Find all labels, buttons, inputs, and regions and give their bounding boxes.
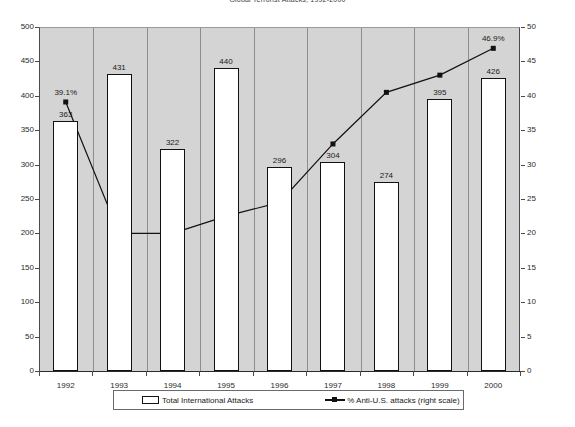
x-axis-tick xyxy=(467,371,468,376)
x-axis-tick xyxy=(520,371,521,376)
chart-title: Global Terrorist Attacks, 1992-2000 xyxy=(0,0,575,3)
left-axis-tick-label: 50 xyxy=(4,333,34,341)
left-axis-tick xyxy=(35,61,39,62)
left-axis-tick xyxy=(35,233,39,234)
bar xyxy=(107,74,132,371)
bar-value-label: 395 xyxy=(412,88,468,97)
chart-legend: Total International Attacks % Anti-U.S. … xyxy=(113,390,464,410)
bar xyxy=(374,182,399,371)
left-axis-tick-label: 100 xyxy=(4,298,34,306)
bar-value-label: 363 xyxy=(38,110,94,119)
right-axis-tick-label: 50 xyxy=(527,23,557,31)
x-axis-tick xyxy=(39,371,40,376)
left-axis-tick-label: 450 xyxy=(4,57,34,65)
left-axis-tick-label: 250 xyxy=(4,195,34,203)
x-axis-tick xyxy=(146,371,147,376)
right-axis-tick xyxy=(521,130,525,131)
x-axis-tick xyxy=(413,371,414,376)
bar-value-label: 304 xyxy=(305,151,361,160)
right-axis: 50454035302520151050 xyxy=(527,0,567,427)
left-axis-tick xyxy=(35,268,39,269)
left-axis-tick xyxy=(35,130,39,131)
category-separator xyxy=(200,28,201,372)
right-axis-tick xyxy=(521,27,525,28)
x-axis-tick-label: 1992 xyxy=(38,381,94,390)
x-axis-tick xyxy=(199,371,200,376)
x-axis-tick-label: 1996 xyxy=(252,381,308,390)
legend-item-total-attacks: Total International Attacks xyxy=(142,396,253,405)
bar xyxy=(53,121,78,371)
x-axis-tick xyxy=(253,371,254,376)
legend-label-total-attacks: Total International Attacks xyxy=(162,396,253,405)
bar-swatch-icon xyxy=(142,396,159,404)
bar-value-label: 322 xyxy=(145,138,201,147)
left-axis-tick-label: 200 xyxy=(4,229,34,237)
bar xyxy=(214,68,239,371)
left-axis-tick-label: 0 xyxy=(4,367,34,375)
bar-value-label: 296 xyxy=(252,156,308,165)
left-axis-tick xyxy=(35,96,39,97)
right-axis-tick-label: 10 xyxy=(527,298,557,306)
bar xyxy=(481,78,506,371)
left-axis: 500450400350300250200150100500 xyxy=(0,0,34,427)
right-axis-tick xyxy=(521,199,525,200)
right-axis-tick-label: 30 xyxy=(527,161,557,169)
category-separator xyxy=(468,28,469,372)
bar-value-label: 426 xyxy=(465,67,521,76)
x-axis-tick xyxy=(360,371,361,376)
left-axis-tick-label: 150 xyxy=(4,264,34,272)
x-axis-tick-label: 1998 xyxy=(358,381,414,390)
left-axis-tick-label: 400 xyxy=(4,92,34,100)
right-axis-tick-label: 20 xyxy=(527,229,557,237)
line-value-label: 46.9% xyxy=(468,34,518,43)
x-axis-tick-label: 1994 xyxy=(145,381,201,390)
bar-value-label: 274 xyxy=(358,171,414,180)
x-axis-tick-label: 1999 xyxy=(412,381,468,390)
line-swatch-icon xyxy=(325,396,345,404)
left-axis-tick-label: 300 xyxy=(4,161,34,169)
right-axis-tick xyxy=(521,96,525,97)
x-axis-tick-label: 2000 xyxy=(465,381,521,390)
right-axis-tick-label: 5 xyxy=(527,333,557,341)
legend-label-anti-us: % Anti-U.S. attacks (right scale) xyxy=(347,396,459,405)
chart-root: Global Terrorist Attacks, 1992-2000 5004… xyxy=(0,0,575,427)
right-axis-tick-label: 25 xyxy=(527,195,557,203)
category-separator xyxy=(254,28,255,372)
line-value-label: 39.1% xyxy=(41,88,91,97)
category-separator xyxy=(307,28,308,372)
bar xyxy=(320,162,345,371)
bar xyxy=(267,167,292,371)
x-axis-tick-label: 1997 xyxy=(305,381,361,390)
category-separator xyxy=(361,28,362,372)
legend-item-anti-us: % Anti-U.S. attacks (right scale) xyxy=(325,396,459,405)
right-axis-tick-label: 45 xyxy=(527,57,557,65)
bar xyxy=(427,99,452,371)
right-axis-tick xyxy=(521,302,525,303)
right-axis-tick-label: 0 xyxy=(527,367,557,375)
category-separator xyxy=(93,28,94,372)
right-axis-tick xyxy=(521,337,525,338)
left-axis-tick-label: 500 xyxy=(4,23,34,31)
right-axis-tick xyxy=(521,268,525,269)
x-axis-tick-label: 1993 xyxy=(91,381,147,390)
right-axis-tick xyxy=(521,165,525,166)
right-axis-tick-label: 35 xyxy=(527,126,557,134)
x-axis-tick xyxy=(92,371,93,376)
left-axis-tick xyxy=(35,199,39,200)
left-axis-tick xyxy=(35,337,39,338)
right-axis-tick-label: 15 xyxy=(527,264,557,272)
bar xyxy=(160,149,185,371)
category-separator xyxy=(414,28,415,372)
category-separator xyxy=(147,28,148,372)
right-axis-tick xyxy=(521,233,525,234)
left-axis-tick xyxy=(35,165,39,166)
bar-value-label: 431 xyxy=(91,63,147,72)
right-axis-tick-label: 40 xyxy=(527,92,557,100)
right-axis-tick xyxy=(521,61,525,62)
bar-value-label: 440 xyxy=(198,57,254,66)
right-axis-tick xyxy=(521,371,525,372)
left-axis-tick xyxy=(35,27,39,28)
left-axis-tick-label: 350 xyxy=(4,126,34,134)
x-axis-line xyxy=(39,371,521,372)
left-axis-tick xyxy=(35,302,39,303)
